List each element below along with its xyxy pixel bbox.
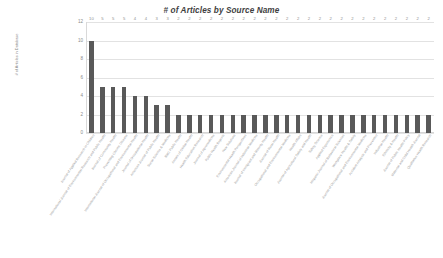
- bar-rect: 2: [241, 115, 245, 134]
- bar-rect: 2: [307, 115, 311, 134]
- bar-value-label: 5: [123, 17, 125, 21]
- bar-item[interactable]: 2: [412, 22, 423, 133]
- bar-rect: 2: [339, 115, 343, 134]
- bar-item[interactable]: 2: [304, 22, 315, 133]
- bar-rect: 4: [144, 96, 148, 133]
- x-axis-tick-labels: Journal of Applied Research in ChildrenI…: [86, 134, 434, 252]
- bar-item[interactable]: 5: [97, 22, 108, 133]
- chart-container: # of Articles by Source Name # of Articl…: [0, 0, 443, 258]
- bar-rect: 5: [111, 87, 115, 133]
- bar-value-label: 3: [156, 17, 158, 21]
- bar-value-label: 2: [232, 17, 234, 21]
- bar-value-label: 2: [373, 17, 375, 21]
- x-axis-tick-label: International Journal of Environmental R…: [49, 134, 106, 217]
- bar-value-label: 2: [427, 17, 429, 21]
- bar-value-label: 2: [362, 17, 364, 21]
- bar-rect: 2: [394, 115, 398, 134]
- y-axis-title: # of Articles in Database: [14, 20, 19, 90]
- bar-item[interactable]: 10: [86, 22, 97, 133]
- bar-value-label: 2: [297, 17, 299, 21]
- bar-item[interactable]: 2: [347, 22, 358, 133]
- bar-value-label: 2: [406, 17, 408, 21]
- bar-item[interactable]: 2: [369, 22, 380, 133]
- bar-value-label: 2: [417, 17, 419, 21]
- bar-item[interactable]: 3: [151, 22, 162, 133]
- bar-value-label: 2: [199, 17, 201, 21]
- bar-item[interactable]: 2: [401, 22, 412, 133]
- y-axis-tick-label: 0: [66, 131, 83, 136]
- bar-item[interactable]: 2: [217, 22, 228, 133]
- bar-value-label: 5: [112, 17, 114, 21]
- bar-item[interactable]: 2: [184, 22, 195, 133]
- bar-value-label: 2: [177, 17, 179, 21]
- bar-item[interactable]: 2: [206, 22, 217, 133]
- bar-rect: 2: [405, 115, 409, 134]
- bar-value-label: 2: [395, 17, 397, 21]
- bar-item[interactable]: 2: [391, 22, 402, 133]
- bar-rect: 2: [209, 115, 213, 134]
- bar-value-label: 5: [101, 17, 103, 21]
- bar-rect: 2: [274, 115, 278, 134]
- bar-value-label: 2: [275, 17, 277, 21]
- bar-item[interactable]: 4: [130, 22, 141, 133]
- bar-value-label: 2: [319, 17, 321, 21]
- y-axis-tick-label: 2: [66, 112, 83, 117]
- bar-rect: 10: [89, 41, 93, 134]
- bar-item[interactable]: 2: [423, 22, 434, 133]
- y-axis-tick-label: 6: [66, 75, 83, 80]
- bar-item[interactable]: 5: [119, 22, 130, 133]
- bar-item[interactable]: 2: [260, 22, 271, 133]
- bar-value-label: 4: [134, 17, 136, 21]
- bar-rect: 2: [220, 115, 224, 134]
- bar-item[interactable]: 2: [249, 22, 260, 133]
- bar-rect: 2: [263, 115, 267, 134]
- x-axis-tick-label: Qualitative Health Research: [407, 134, 433, 170]
- y-axis-tick-label: 12: [66, 20, 83, 25]
- bar-rect: 2: [296, 115, 300, 134]
- bar-rect: 2: [361, 115, 365, 134]
- bar-value-label: 2: [308, 17, 310, 21]
- y-axis-tick-label: 10: [66, 38, 83, 43]
- bar-item[interactable]: 2: [238, 22, 249, 133]
- bar-value-label: 2: [384, 17, 386, 21]
- bar-rect: 4: [133, 96, 137, 133]
- bar-rect: 2: [176, 115, 180, 134]
- bar-value-label: 4: [145, 17, 147, 21]
- bar-rect: 2: [383, 115, 387, 134]
- bar-value-label: 2: [188, 17, 190, 21]
- bar-value-label: 10: [89, 17, 94, 21]
- bar-value-label: 2: [330, 17, 332, 21]
- bar-item[interactable]: 2: [271, 22, 282, 133]
- bar-item[interactable]: 2: [293, 22, 304, 133]
- bar-value-label: 2: [264, 17, 266, 21]
- bar-item[interactable]: 5: [108, 22, 119, 133]
- chart-title: # of Articles by Source Name: [0, 6, 443, 15]
- bar-item[interactable]: 2: [358, 22, 369, 133]
- bar-item[interactable]: 4: [140, 22, 151, 133]
- bar-item[interactable]: 2: [227, 22, 238, 133]
- bar-item[interactable]: 2: [336, 22, 347, 133]
- bar-rect: 2: [252, 115, 256, 134]
- bar-item[interactable]: 2: [325, 22, 336, 133]
- bar-item[interactable]: 2: [173, 22, 184, 133]
- bar-item[interactable]: 3: [162, 22, 173, 133]
- bar-rect: 2: [231, 115, 235, 134]
- bar-value-label: 2: [351, 17, 353, 21]
- bar-rect: 2: [372, 115, 376, 134]
- bar-value-label: 2: [221, 17, 223, 21]
- bar-rect: 2: [328, 115, 332, 134]
- bar-rect: 5: [122, 87, 126, 133]
- bar-value-label: 2: [253, 17, 255, 21]
- bar-rect: 2: [415, 115, 419, 134]
- bar-value-label: 2: [243, 17, 245, 21]
- bar-rect: 2: [285, 115, 289, 134]
- bar-item[interactable]: 2: [380, 22, 391, 133]
- bar-rect: 3: [165, 105, 169, 133]
- bar-rect: 3: [154, 105, 158, 133]
- bar-value-label: 2: [286, 17, 288, 21]
- bar-value-label: 3: [166, 17, 168, 21]
- bar-item[interactable]: 2: [282, 22, 293, 133]
- bar-item[interactable]: 2: [195, 22, 206, 133]
- bar-item[interactable]: 2: [314, 22, 325, 133]
- bar-rect: 2: [426, 115, 430, 134]
